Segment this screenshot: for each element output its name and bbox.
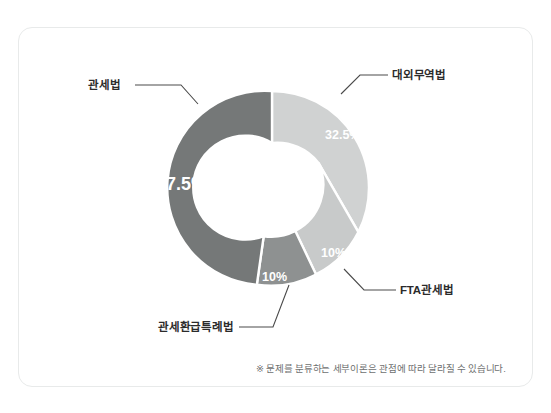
leader-line-fta-gwansebeop xyxy=(344,269,396,290)
slice-label-gwansehwangeupteungnyebeop: 관세환급특례법 xyxy=(158,318,234,334)
slice-value-gwansehwangeupteungnyebeop: 10% xyxy=(262,270,287,284)
slice-label-fta-gwansebeop: FTA관세법 xyxy=(400,281,453,297)
slice-value-fta-gwansebeop: 10% xyxy=(321,246,346,260)
slice-value-daewoemuyeokbeop: 32.5% xyxy=(325,128,360,142)
chart-footnote: ※ 문제를 분류하는 세부이론은 관점에 따라 달라질 수 있습니다. xyxy=(256,361,506,375)
slice-label-gwansebeop: 관세법 xyxy=(88,76,120,92)
donut-chart xyxy=(0,0,551,413)
slice-value-gwansebeop: 47.5% xyxy=(156,174,207,195)
leader-line-daewoemuyeokbeop xyxy=(341,75,388,94)
screenshot-root: 대외무역법 FTA관세법 관세환급특례법 관세법 32.5% 10% 10% 4… xyxy=(0,0,551,413)
leader-line-gwansebeop xyxy=(135,85,198,104)
slice-label-daewoemuyeokbeop: 대외무역법 xyxy=(392,66,446,82)
leader-line-gwansehwangeupteungnyebeop xyxy=(239,285,289,327)
